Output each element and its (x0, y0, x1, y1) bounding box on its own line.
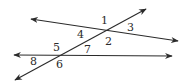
angle-label-2: 2 (105, 35, 112, 48)
angle-label-8: 8 (30, 55, 37, 68)
lower-line (14, 55, 172, 56)
angle-label-1: 1 (101, 14, 108, 27)
angle-label-4: 4 (77, 28, 84, 41)
lines (14, 9, 178, 80)
angle-label-6: 6 (56, 58, 63, 71)
angles-diagram: 1 3 4 2 5 7 8 6 (0, 0, 188, 83)
angle-label-3: 3 (127, 21, 134, 34)
angle-label-7: 7 (84, 43, 91, 56)
angle-label-5: 5 (53, 41, 60, 54)
angle-labels: 1 3 4 2 5 7 8 6 (30, 14, 134, 71)
